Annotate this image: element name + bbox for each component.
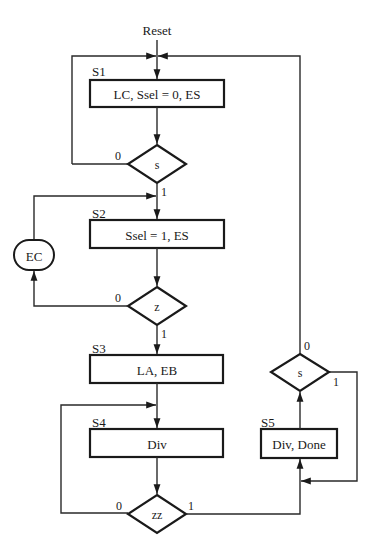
- state-name-s1: S1: [92, 65, 106, 78]
- state-name-s2: S2: [92, 207, 106, 220]
- zz-true-to-s5-arrow: [186, 459, 300, 514]
- s1-loop-arrow: [72, 56, 156, 164]
- zz-false-loop-arrow: [61, 405, 156, 513]
- decision-s-condition: s: [155, 159, 160, 171]
- decision-s-false-label: 0: [115, 150, 121, 162]
- state-actions-s1: LC, Ssel = 0, ES: [114, 88, 201, 101]
- decision-z-false-label: 0: [115, 292, 121, 304]
- decision-zz-true-label: 1: [188, 500, 194, 512]
- decision-zz-false-label: 0: [116, 500, 122, 512]
- conditional-output-ec-label: EC: [26, 250, 43, 263]
- state-name-s4: S4: [92, 416, 106, 429]
- state-actions-s4: Div: [147, 438, 167, 451]
- state-name-s5: S5: [261, 416, 275, 429]
- decision-z-condition: z: [154, 301, 159, 313]
- asm-chart: [0, 0, 382, 555]
- state-actions-s2: Ssel = 1, ES: [125, 229, 189, 242]
- state-actions-s5: Div, Done: [272, 438, 325, 451]
- decision-s-right-condition: s: [298, 367, 303, 379]
- z-false-to-ec-arrow: [34, 271, 128, 306]
- decision-zz-condition: zz: [152, 509, 163, 521]
- state-name-s3: S3: [92, 342, 106, 355]
- reset-label: Reset: [143, 24, 172, 37]
- decision-s-right-false-label: 0: [304, 340, 310, 352]
- state-actions-s3: LA, EB: [137, 364, 177, 377]
- decision-z-true-label: 1: [161, 328, 167, 340]
- s-right-true-loop-arrow: [301, 372, 357, 481]
- decision-s-right-true-label: 1: [333, 376, 339, 388]
- decision-s-true-label: 1: [161, 186, 167, 198]
